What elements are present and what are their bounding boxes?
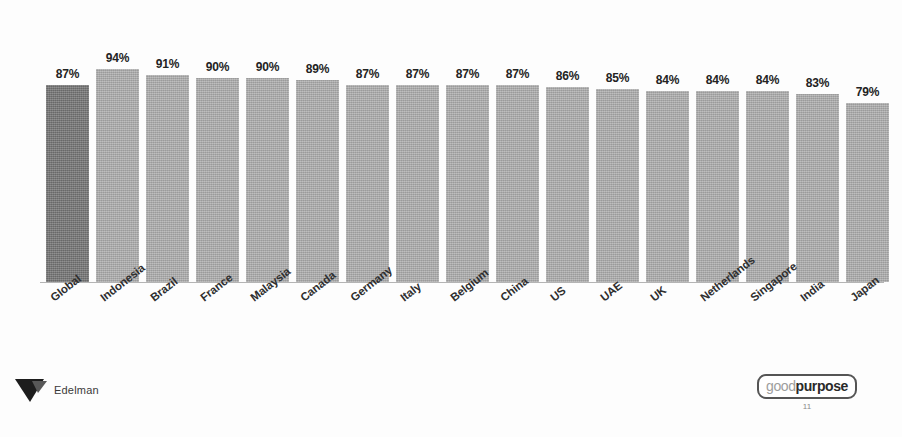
bar-value-label: 87%	[390, 67, 445, 81]
bar-value-label: 84%	[640, 73, 695, 87]
bar-value-label: 94%	[90, 51, 145, 65]
bar-germany	[346, 85, 389, 282]
bar-china	[496, 85, 539, 282]
edelman-arrow-icon	[14, 376, 48, 404]
bar-value-label: 87%	[490, 67, 545, 81]
bar-value-label: 91%	[140, 57, 195, 71]
slide-footer: Edelman goodpurpose 11	[0, 366, 902, 437]
bar-japan	[846, 103, 889, 282]
bar-column: 84%	[696, 91, 739, 282]
badge-purpose-text: purpose	[796, 378, 848, 394]
bar-column: 94%	[96, 69, 139, 282]
bar-value-label: 86%	[540, 69, 595, 83]
goodpurpose-badge-wrap: goodpurpose 11	[752, 374, 862, 411]
bar-global	[46, 85, 89, 282]
edelman-logo: Edelman	[14, 376, 99, 404]
bar-value-label: 90%	[240, 60, 295, 74]
bar-chart: 87%94%91%90%90%89%87%87%87%87%86%85%84%8…	[0, 0, 902, 290]
bar-column: 91%	[146, 75, 189, 282]
bar-value-label: 85%	[590, 71, 645, 85]
bar-column: 90%	[196, 78, 239, 282]
bar-us	[546, 87, 589, 282]
bar-column: 90%	[246, 78, 289, 282]
bar-column: 85%	[596, 89, 639, 282]
bar-netherlands	[696, 91, 739, 282]
bar-malaysia	[246, 78, 289, 282]
bar-value-label: 84%	[740, 73, 795, 87]
bar-indonesia	[96, 69, 139, 282]
bar-column: 86%	[546, 87, 589, 282]
bar-column: 87%	[346, 85, 389, 282]
edelman-wordmark: Edelman	[54, 384, 99, 396]
bar-uk	[646, 91, 689, 282]
page-number: 11	[752, 402, 862, 411]
bar-column: 79%	[846, 103, 889, 282]
bar-brazil	[146, 75, 189, 282]
bar-column: 87%	[46, 85, 89, 282]
bar-column: 84%	[746, 91, 789, 282]
category-labels-layer: GlobalIndonesiaBrazilFranceMalaysiaCanad…	[46, 288, 902, 368]
bar-value-label: 87%	[40, 67, 95, 81]
bar-value-label: 87%	[440, 67, 495, 81]
bar-column: 87%	[446, 85, 489, 282]
bar-italy	[396, 85, 439, 282]
bar-value-label: 83%	[790, 76, 845, 90]
bar-value-label: 87%	[340, 67, 395, 81]
bars-layer: 87%94%91%90%90%89%87%87%87%87%86%85%84%8…	[46, 0, 902, 290]
bar-india	[796, 94, 839, 282]
goodpurpose-badge: goodpurpose	[757, 374, 857, 399]
bar-uae	[596, 89, 639, 282]
category-label-us: US	[548, 284, 568, 303]
bar-canada	[296, 80, 339, 282]
bar-column: 87%	[496, 85, 539, 282]
bar-column: 87%	[396, 85, 439, 282]
bar-value-label: 90%	[190, 60, 245, 74]
bar-value-label: 79%	[840, 85, 895, 99]
bar-column: 84%	[646, 91, 689, 282]
bar-belgium	[446, 85, 489, 282]
bar-singapore	[746, 91, 789, 282]
bar-column: 83%	[796, 94, 839, 282]
bar-value-label: 84%	[690, 73, 745, 87]
bar-column: 89%	[296, 80, 339, 282]
badge-good-text: good	[766, 378, 796, 394]
slide-canvas: 87%94%91%90%90%89%87%87%87%87%86%85%84%8…	[0, 0, 902, 437]
bar-value-label: 89%	[290, 62, 345, 76]
bar-france	[196, 78, 239, 282]
